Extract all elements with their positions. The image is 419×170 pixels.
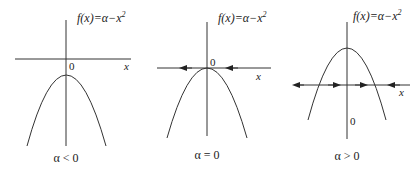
panel-caption: α = 0 [194, 148, 219, 162]
function-label: f(x)=α−x2 [218, 10, 266, 25]
function-label: f(x)=α−x2 [77, 10, 125, 25]
panel-alpha-positive: f(x)=α−x2 0 x α > 0 [295, 8, 410, 163]
panel-alpha-negative: f(x)=α−x2 0 x α < 0 [15, 10, 131, 165]
panel-caption: α < 0 [53, 151, 78, 165]
x-axis-label: x [255, 70, 261, 82]
bifurcation-diagram: f(x)=α−x2 0 x α < 0 f(x)=α−x2 0 x α = 0 … [0, 0, 419, 170]
origin-label: 0 [69, 60, 75, 72]
x-axis-label: x [398, 86, 404, 98]
panel-caption: α > 0 [334, 149, 359, 163]
x-axis-label: x [123, 60, 129, 72]
function-label: f(x)=α−x2 [353, 8, 401, 23]
origin-label: 0 [350, 115, 356, 127]
origin-label: 0 [210, 56, 216, 68]
panel-alpha-zero: f(x)=α−x2 0 x α = 0 [157, 10, 271, 162]
